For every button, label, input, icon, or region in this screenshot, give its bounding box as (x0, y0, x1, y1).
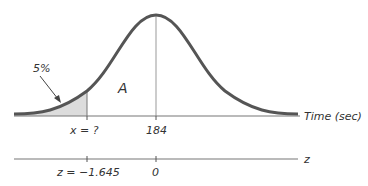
area-label: A (118, 80, 128, 96)
normal-curve-diagram: 5% A Time (sec) z x = ? 184 z = −1.645 0 (0, 0, 368, 186)
diagram-graphics (0, 0, 368, 186)
z-axis-title: z (304, 153, 310, 166)
x-axis-title: Time (sec) (304, 110, 362, 123)
z-cutoff-label: z = −1.645 (57, 166, 120, 179)
arrow-head-icon (54, 95, 61, 103)
x-cutoff-label: x = ? (70, 124, 99, 137)
tail-percent-label: 5% (33, 62, 50, 75)
z-mean-label: 0 (152, 166, 159, 179)
x-mean-label: 184 (146, 124, 167, 137)
tail-arrow (40, 76, 58, 99)
